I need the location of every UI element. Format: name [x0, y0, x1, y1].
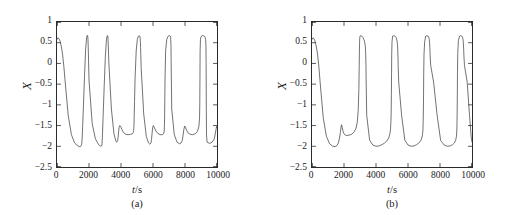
x-axis-label-unit-b: s: [393, 184, 397, 195]
figure-container: X 10.50−0.5−1−1.5−2−2.5 0200040006000800…: [0, 0, 511, 215]
panel-a: X 10.50−0.5−1−1.5−2−2.5 0200040006000800…: [0, 0, 255, 215]
y-tick-label: 0.5: [6, 37, 52, 47]
y-tick-label: 0.5: [261, 37, 307, 47]
x-tick-labels-b: 0200040006000800010000: [311, 170, 473, 184]
x-tick-label: 10000: [461, 170, 485, 180]
y-tick-label: 1: [261, 16, 307, 26]
x-tick-label: 8000: [176, 170, 195, 180]
y-tick-labels-a: 10.50−0.5−1−1.5−2−2.5: [0, 21, 52, 168]
x-axis-label-unit-a: s: [138, 184, 142, 195]
y-tick-label: −1.5: [261, 121, 307, 131]
plot-svg-b: [312, 22, 472, 167]
y-tick-label: 1: [6, 16, 52, 26]
plot-area-a: [56, 21, 218, 168]
x-tick-label: 10000: [206, 170, 230, 180]
x-tick-label: 6000: [399, 170, 418, 180]
series-line: [312, 36, 472, 147]
x-tick-label: 2000: [334, 170, 353, 180]
x-tick-label: 8000: [431, 170, 450, 180]
y-tick-label: −0.5: [261, 79, 307, 89]
plot-svg-a: [57, 22, 217, 167]
y-tick-labels-b: 10.50−0.5−1−1.5−2−2.5: [255, 21, 307, 168]
x-tick-label: 4000: [366, 170, 385, 180]
y-tick-label: −2: [6, 142, 52, 152]
y-tick-label: −1.5: [6, 121, 52, 131]
panel-b: X 10.50−0.5−1−1.5−2−2.5 0200040006000800…: [255, 0, 510, 215]
x-axis-label-a: t/s: [56, 184, 218, 195]
y-tick-label: −2.5: [261, 163, 307, 173]
panel-caption-a: (a): [56, 198, 218, 209]
y-tick-label: −2: [261, 142, 307, 152]
y-tick-label: −2.5: [6, 163, 52, 173]
x-tick-label: 0: [309, 170, 314, 180]
x-tick-label: 2000: [79, 170, 98, 180]
y-tick-label: −1: [6, 100, 52, 110]
y-tick-label: −0.5: [6, 79, 52, 89]
x-tick-label: 0: [54, 170, 59, 180]
y-tick-label: 0: [6, 58, 52, 68]
x-tick-labels-a: 0200040006000800010000: [56, 170, 218, 184]
plot-area-b: [311, 21, 473, 168]
y-tick-label: 0: [261, 58, 307, 68]
panel-caption-b: (b): [311, 198, 473, 209]
x-tick-label: 4000: [111, 170, 130, 180]
x-tick-label: 6000: [144, 170, 163, 180]
x-axis-label-b: t/s: [311, 184, 473, 195]
y-tick-label: −1: [261, 100, 307, 110]
series-line: [57, 35, 217, 146]
